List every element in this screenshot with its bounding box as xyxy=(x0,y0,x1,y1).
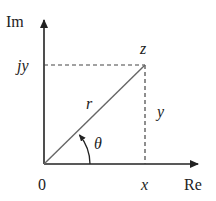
imaginary-axis-label: Im xyxy=(6,13,24,30)
real-part-label: x xyxy=(140,176,148,193)
radius-label: r xyxy=(86,95,93,112)
point-z-label: z xyxy=(139,40,147,57)
origin-label: 0 xyxy=(38,176,46,193)
angle-theta-label: θ xyxy=(94,135,102,152)
imag-part-label: jy xyxy=(15,57,29,75)
angle-arc xyxy=(80,135,91,164)
vertical-leg-label: y xyxy=(155,103,165,121)
real-axis-label: Re xyxy=(184,176,202,193)
complex-plane-diagram: Im Re 0 jy z x r y θ xyxy=(0,0,216,201)
